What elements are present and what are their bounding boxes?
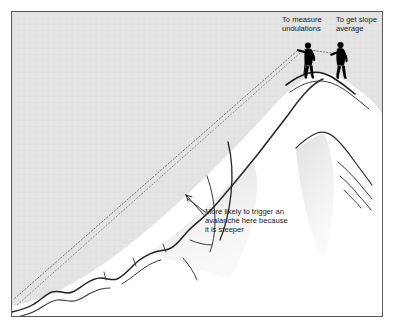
callout-to-measure-undulations: To measure undulations <box>282 16 334 34</box>
diagram-canvas <box>0 0 394 328</box>
annotation-avalanche-warning: More likely to trigger an avalanche here… <box>205 208 320 235</box>
avalanche-slope-diagram: To measure undulations To get slope aver… <box>0 0 394 328</box>
callout-to-get-slope-average: To get slope average <box>336 16 390 34</box>
